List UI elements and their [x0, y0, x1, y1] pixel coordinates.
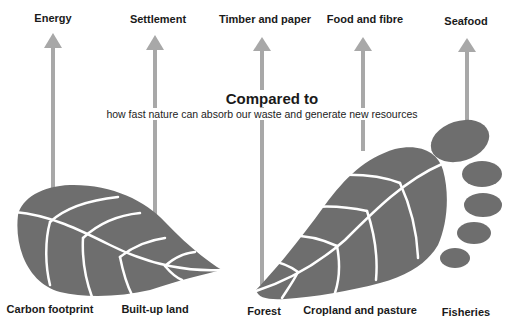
label-settlement: Settlement: [130, 13, 186, 25]
label-seafood: Seafood: [444, 15, 487, 27]
timber-arrow: [253, 37, 271, 285]
food-arrow: [354, 37, 372, 151]
label-carbon-footprint: Carbon footprint: [7, 303, 94, 315]
energy-arrow: [44, 33, 62, 188]
label-cropland-and-pasture: Cropland and pasture: [303, 304, 417, 316]
heel-footprint-shape: [15, 185, 222, 297]
label-timber-and-paper: Timber and paper: [219, 13, 311, 25]
label-energy: Energy: [34, 12, 71, 24]
comparison-subtitle: how fast nature can absorb our waste and…: [104, 108, 419, 120]
ecological-footprint-diagram: Energy Settlement Timber and paper Food …: [0, 0, 513, 335]
label-food-and-fibre: Food and fibre: [327, 13, 403, 25]
toe-3: [464, 193, 502, 217]
foot-footprint-shape: [256, 147, 447, 299]
comparison-title: Compared to: [222, 90, 323, 107]
toe-5: [440, 248, 470, 268]
label-forest: Forest: [247, 305, 281, 317]
label-built-up-land: Built-up land: [121, 303, 188, 315]
label-fisheries: Fisheries: [442, 306, 490, 318]
toe-2: [462, 161, 502, 187]
settlement-arrow: [146, 35, 164, 227]
toe-4: [457, 222, 491, 244]
